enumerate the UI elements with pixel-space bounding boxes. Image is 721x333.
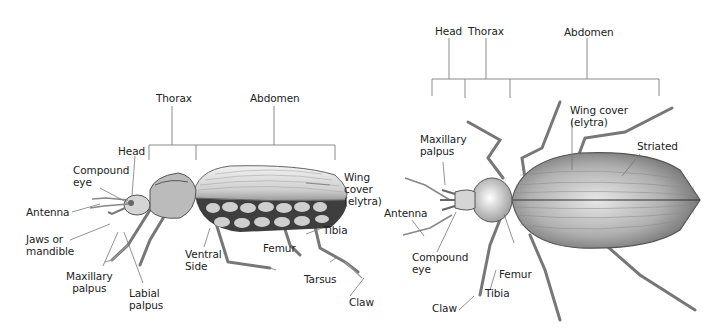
line-1: Wing cover xyxy=(570,104,628,116)
side-label-tibia: Tibia xyxy=(323,224,348,236)
side-label-compound-eye: Compound eye xyxy=(73,164,129,188)
line-2: palpus xyxy=(129,299,163,311)
side-label-claw: Claw xyxy=(349,296,374,308)
side-label-ventral-side: Ventral Side xyxy=(185,248,222,272)
line-2: eye xyxy=(412,263,468,275)
side-label-thorax: Thorax xyxy=(156,92,192,104)
line-1: Compound xyxy=(73,164,129,176)
line-2: Side xyxy=(185,260,222,272)
side-label-head: Head xyxy=(118,145,145,157)
line-2: palpus xyxy=(66,282,113,294)
side-label-jaws: Jaws or mandible xyxy=(26,233,74,257)
top-label-wing-cover: Wing cover (elytra) xyxy=(570,104,628,128)
side-label-labial-palpus: Labial palpus xyxy=(129,287,163,311)
line-1: Labial xyxy=(129,287,163,299)
top-label-striated: Striated xyxy=(637,140,678,152)
top-bracket-lines xyxy=(432,38,659,98)
line-1: Compound xyxy=(412,251,468,263)
top-label-antenna: Antenna xyxy=(384,207,427,219)
top-label-abdomen: Abdomen xyxy=(564,26,614,38)
top-label-tibia: Tibia xyxy=(485,287,510,299)
line-1: Ventral xyxy=(185,248,222,260)
line-1: Wing xyxy=(344,171,382,183)
side-label-maxillary-palpus: Maxillary palpus xyxy=(66,270,113,294)
side-view-beetle xyxy=(90,166,362,278)
side-label-femur: Femur xyxy=(263,242,296,254)
side-label-antenna: Antenna xyxy=(26,206,69,218)
line-2: (elytra) xyxy=(570,116,628,128)
side-label-tarsus: Tarsus xyxy=(304,273,336,285)
top-label-femur: Femur xyxy=(499,268,532,280)
line-3: (elytra) xyxy=(344,195,382,207)
top-label-maxillary-palpus: Maxillary palpus xyxy=(420,133,467,157)
line-2: cover xyxy=(344,183,382,195)
line-1: Jaws or xyxy=(26,233,74,245)
line-2: palpus xyxy=(420,145,467,157)
line-1: Maxillary xyxy=(66,270,113,282)
top-label-compound-eye: Compound eye xyxy=(412,251,468,275)
line-2: eye xyxy=(73,176,129,188)
line-1: Maxillary xyxy=(420,133,467,145)
top-label-claw: Claw xyxy=(432,302,457,314)
top-label-thorax: Thorax xyxy=(468,25,504,37)
side-label-abdomen: Abdomen xyxy=(250,92,300,104)
side-label-wing-cover: Wing cover (elytra) xyxy=(344,171,382,207)
top-label-head: Head xyxy=(435,25,462,37)
side-bracket-lines xyxy=(149,106,335,160)
line-2: mandible xyxy=(26,245,74,257)
